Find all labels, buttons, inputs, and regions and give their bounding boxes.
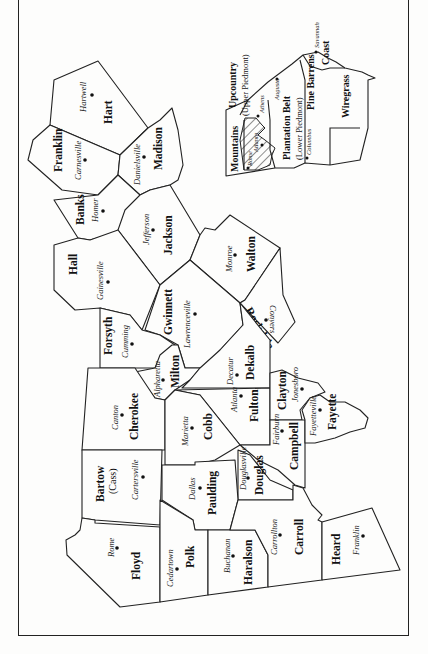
region-sub-upcountry: (Upper Piedmont) [240,54,250,116]
inset-city-augusta: Augusta [273,79,280,101]
seat-label: Fayetteville [308,396,318,437]
seat-label: Canton [110,405,120,430]
county-label: Milton [169,354,181,388]
county-haralson[interactable]: Buchanan Haralson [208,530,268,595]
county-label: Franklin [52,128,64,172]
county-label: Clayton [276,370,289,410]
seat-label: Franklin [351,525,361,556]
region-label-upcountry: Upcountry [227,62,238,108]
county-label: Paulding [206,471,219,515]
county-label: Fayette [326,394,339,430]
seat-label: Carrollton [269,519,279,555]
seat-label: Jonesboro [290,367,300,402]
seat-label: Decatur [225,356,235,386]
seat-label: Gainesville [95,261,105,300]
seat-label: Cartersville [130,459,140,500]
regions-inset-map: Rome Atlanta Athens Augusta Columbus Sav… [226,22,375,176]
county-label: Walton [245,236,257,272]
county-label: Cherokee [128,393,140,440]
seat-label: Alpharetta [152,361,162,398]
seat-label: Cedartown [165,549,175,587]
county-label: Forsyth [102,316,115,355]
region-label-wiregrass: Wiregrass [340,74,351,118]
seat-label: Dallas [187,477,197,501]
seat-label: Fairburn [271,414,281,446]
inset-city-columbus: Columbus [305,128,312,155]
county-floyd[interactable]: Rome Floyd [66,518,160,607]
county-label: Haralson [242,539,254,585]
seat-label: Rome [106,537,116,558]
county-label: Heard [330,533,342,565]
county-label: Floyd [130,551,143,580]
seat-label: Danielsville [132,144,142,186]
county-label: Hart [102,100,114,124]
county-label: Madison [152,127,164,170]
county-label: Carroll [293,519,305,555]
county-label: Fulton [248,389,260,422]
seat-label: Monroe [224,245,234,273]
region-label-plantation-belt: Plantation Belt [281,95,292,160]
seat-label: Lawrenceville [182,300,192,349]
county-label: Dekalb [244,345,256,380]
inset-city-rome: Rome [246,151,253,167]
county-bartow[interactable]: Cartersville Bartow (Cass) [82,450,162,525]
seat-label: Douglasville [238,446,248,491]
seat-label: Homer [90,198,100,223]
region-label-mountains: Mountains [229,126,240,172]
inset-city-athens: Athens [258,95,265,114]
county-label: Polk [184,545,196,568]
county-label: Hall [67,254,79,275]
county-heard[interactable]: Franklin Heard [322,508,400,580]
county-label: Campbell [288,422,301,470]
county-label: Bartow [94,465,106,502]
seat-label: Hartwell [78,81,88,113]
county-label: Jackson [162,215,174,255]
seat-label: Jefferson [141,214,151,245]
region-label-pine-barrens: Pine Barrens [305,54,316,110]
county-label: Cobb [202,413,214,440]
seat-label: Conyers [268,305,278,334]
county-label: Douglas [253,455,266,495]
seat-label: Cumming [120,325,130,358]
county-label: Banks [74,194,86,225]
inset-city-savannah: Savannah [313,22,320,48]
seat-label: Atlanta [229,387,239,413]
inset-city-atlanta: Atlanta [252,133,259,153]
seat-label: Buchanan [222,539,232,573]
seat-label: Marietta [180,416,190,447]
county-label: Gwinnett [162,289,174,335]
county-map: Hartwell Hart Carnesville Franklin Danie… [0,0,428,654]
seat-label: Carnesville [73,141,83,180]
region-sub-plantation-belt: (Lower Piedmont) [294,97,304,160]
county-fayette[interactable]: Fayetteville Fayette [302,394,368,443]
county-alt-label: (Cass) [107,468,119,494]
region-label-coast: Coast [320,40,331,65]
